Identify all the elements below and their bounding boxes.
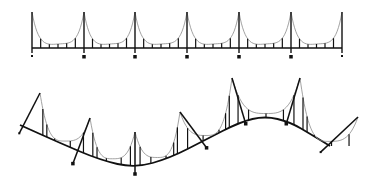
curved-tower xyxy=(286,78,300,124)
curved-cable xyxy=(300,78,358,141)
tower-foot xyxy=(341,55,343,57)
curved-tower-foot xyxy=(205,146,209,150)
curved-suspension-bridge xyxy=(18,78,358,176)
tower-foot xyxy=(237,55,241,59)
curved-tower xyxy=(232,78,246,124)
tower-foot xyxy=(82,55,86,59)
curved-tower xyxy=(321,117,358,152)
curved-tower xyxy=(19,93,40,133)
curved-tower-foot xyxy=(71,162,75,166)
main-cable xyxy=(84,12,135,44)
tower-foot xyxy=(185,55,189,59)
tower-foot xyxy=(289,55,293,59)
curved-tower-foot xyxy=(244,122,248,126)
curved-tower-foot xyxy=(133,172,137,176)
curved-cable xyxy=(232,78,300,114)
curved-tower-foot xyxy=(18,132,20,134)
curved-tower-foot xyxy=(320,151,322,153)
bridge-illustration xyxy=(0,0,378,188)
straight-suspension-bridge xyxy=(31,12,343,59)
tower-foot xyxy=(133,55,137,59)
main-cable xyxy=(135,12,187,44)
main-cable xyxy=(291,12,342,44)
bridge-drawing xyxy=(0,0,378,188)
main-cable xyxy=(239,12,291,44)
curved-tower-foot xyxy=(285,122,289,126)
curved-tower xyxy=(73,118,90,164)
main-cable xyxy=(187,12,239,44)
curved-deck xyxy=(20,118,330,166)
curved-cable xyxy=(180,78,232,135)
curved-cable xyxy=(40,93,90,141)
curved-tower xyxy=(180,112,207,148)
main-cable xyxy=(32,12,84,44)
tower-foot xyxy=(31,55,33,57)
